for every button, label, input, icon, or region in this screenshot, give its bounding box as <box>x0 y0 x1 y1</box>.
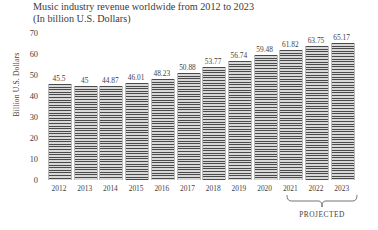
y-tick-10: 10 <box>12 155 38 164</box>
y-tick-50: 50 <box>12 71 38 80</box>
bar-2013 <box>74 86 98 181</box>
bar-2021 <box>279 50 303 180</box>
y-tick-70: 70 <box>12 29 38 38</box>
bar-2015 <box>125 83 149 180</box>
bar-2020 <box>254 55 278 180</box>
chart-container: Music industry revenue worldwide from 20… <box>0 0 378 230</box>
y-tick-0: 0 <box>12 176 38 185</box>
y-tick-60: 60 <box>12 50 38 59</box>
projected-brace <box>286 194 358 207</box>
y-tick-30: 30 <box>12 113 38 122</box>
bar-value-label-2023: 65.17 <box>325 33 359 42</box>
bar-2022 <box>305 46 329 180</box>
projected-label: PROJECTED <box>286 210 358 219</box>
bar-2018 <box>202 67 226 180</box>
bar-2019 <box>228 61 252 180</box>
bar-2014 <box>99 86 123 180</box>
y-tick-20: 20 <box>12 134 38 143</box>
bar-2012 <box>48 84 72 180</box>
chart-title-block: Music industry revenue worldwide from 20… <box>33 1 353 25</box>
bar-2017 <box>177 73 201 180</box>
bar-2016 <box>151 79 175 180</box>
chart-title: Music industry revenue worldwide from 20… <box>33 1 353 13</box>
x-tick-2023: 2023 <box>325 184 359 193</box>
curly-brace-icon <box>286 195 358 208</box>
chart-subtitle: (In billion U.S. Dollars) <box>33 13 353 25</box>
bar-2023 <box>331 43 355 180</box>
y-axis-title: Billion U.S. Dollars <box>12 25 21 145</box>
y-tick-40: 40 <box>12 92 38 101</box>
